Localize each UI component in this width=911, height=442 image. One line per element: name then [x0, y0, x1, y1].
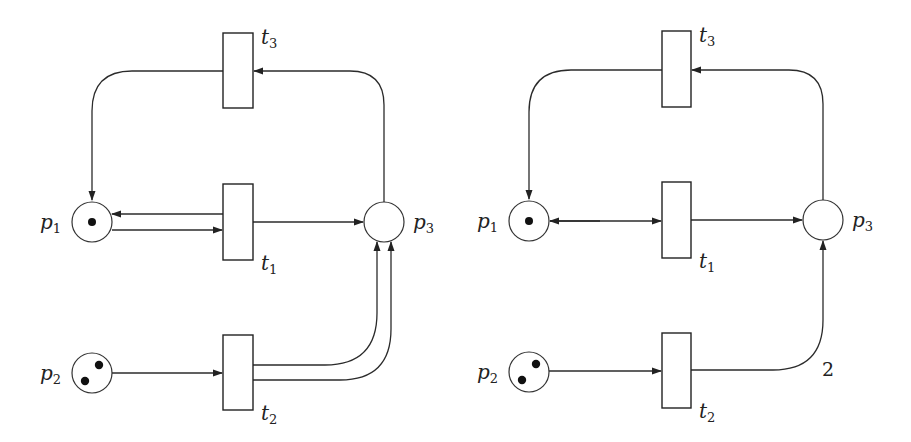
- left-petri-net: p1 p2 p3 t3 t1 t2: [40, 25, 434, 427]
- place-p3: p3: [364, 202, 434, 242]
- transition-t1: t1: [662, 182, 715, 275]
- place-p1: p1: [477, 201, 549, 241]
- svg-text:t3: t3: [699, 23, 715, 49]
- token: [88, 218, 96, 226]
- place-p2: p2: [477, 352, 549, 392]
- transition-t3: t3: [223, 25, 277, 108]
- svg-text:t1: t1: [261, 251, 277, 277]
- transition-t2: t2: [223, 335, 277, 427]
- token: [81, 377, 89, 385]
- arc-weight-label: 2: [822, 358, 834, 380]
- svg-text:p2: p2: [477, 360, 498, 386]
- svg-text:p2: p2: [40, 361, 61, 387]
- token: [525, 217, 533, 225]
- petri-net-figure: p1 p2 p3 t3 t1 t2: [0, 0, 911, 442]
- token: [95, 361, 103, 369]
- transition-t1: t1: [223, 184, 277, 277]
- svg-text:t2: t2: [699, 399, 715, 425]
- place-p1: p1: [40, 202, 112, 242]
- place-p2: p2: [40, 353, 112, 393]
- svg-text:t3: t3: [261, 25, 277, 51]
- transition-t3: t3: [662, 23, 715, 107]
- svg-text:t1: t1: [699, 249, 715, 275]
- right-petri-net: 2 p1 p2 p3 t3 t1 t2: [477, 23, 873, 425]
- arc-t2-to-p3-a: [253, 242, 377, 365]
- place-p3: p3: [803, 200, 873, 240]
- svg-text:p3: p3: [852, 208, 873, 234]
- token: [532, 360, 540, 368]
- transition-t2: t2: [662, 333, 715, 425]
- arc-p3-to-t3: [692, 70, 823, 200]
- svg-text:p1: p1: [477, 209, 498, 235]
- token: [518, 376, 526, 384]
- svg-text:p3: p3: [413, 210, 434, 236]
- svg-text:t2: t2: [261, 401, 277, 427]
- arc-t3-to-p1: [92, 71, 223, 200]
- arc-t3-to-p1: [529, 70, 662, 199]
- svg-text:p1: p1: [40, 210, 61, 236]
- arc-p3-to-t3: [254, 71, 384, 202]
